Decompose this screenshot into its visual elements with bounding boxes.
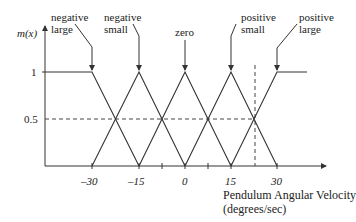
label-positive-large-1: positive: [299, 12, 334, 23]
label-positive-small-1: positive: [241, 12, 276, 23]
arrow-positive-small: [231, 24, 236, 70]
y-tick-0-5: 0.5: [24, 114, 38, 125]
x-tick-30: 30: [271, 176, 282, 187]
arrow-positive-large: [277, 24, 297, 70]
x-tick-minus-30: –30: [81, 176, 98, 187]
x-tick-15: 15: [225, 176, 236, 187]
x-tick-0: 0: [182, 176, 188, 187]
label-negative-large-1: negative: [51, 12, 88, 23]
label-negative-small-2: small: [104, 24, 128, 35]
x-axis-label-line2: (degrees/sec): [223, 204, 286, 215]
y-tick-1: 1: [31, 67, 37, 78]
arrow-negative-large: [75, 24, 92, 70]
arrow-negative-small: [133, 24, 139, 70]
label-positive-small-2: small: [241, 24, 265, 35]
x-tick-minus-15: –15: [128, 176, 145, 187]
label-positive-large-2: large: [299, 24, 321, 35]
x-axis-label-line1: Pendulum Angular Velocity: [223, 190, 356, 201]
label-negative-small-1: negative: [104, 12, 141, 23]
label-negative-large-2: large: [51, 24, 73, 35]
label-zero: zero: [175, 27, 194, 38]
y-axis-label: m(x): [17, 28, 37, 39]
